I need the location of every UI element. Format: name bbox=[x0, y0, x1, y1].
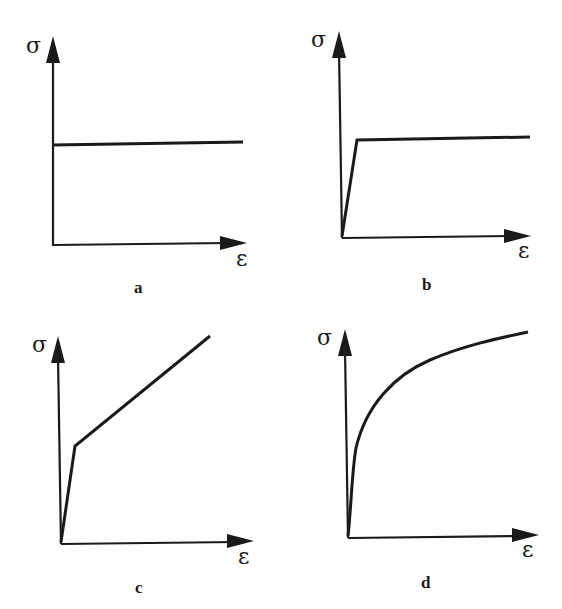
y-axis bbox=[58, 356, 61, 544]
panel-c: σ ε c bbox=[32, 332, 254, 597]
panel-caption: c bbox=[135, 578, 143, 597]
stress-strain-curve bbox=[348, 332, 528, 536]
x-axis-label: ε bbox=[238, 544, 249, 569]
panel-a: σ ε a bbox=[26, 33, 247, 297]
stress-strain-curve bbox=[53, 142, 243, 145]
stress-strain-figure: σ ε a σ ε b σ ε c σ ε d bbox=[0, 0, 562, 609]
x-axis-label: ε bbox=[236, 246, 247, 271]
y-axis-arrow-icon bbox=[51, 336, 65, 363]
x-axis bbox=[342, 236, 512, 238]
panel-b: σ ε b bbox=[311, 27, 531, 294]
panel-d: σ ε d bbox=[317, 325, 539, 592]
stress-strain-curve bbox=[61, 336, 210, 542]
y-axis-arrow-icon bbox=[338, 329, 352, 356]
panel-caption: d bbox=[421, 573, 431, 592]
y-axis bbox=[339, 50, 342, 238]
panel-caption: a bbox=[134, 278, 143, 297]
x-axis bbox=[53, 243, 228, 245]
x-axis-label: ε bbox=[518, 238, 529, 263]
stress-strain-curve bbox=[342, 137, 530, 236]
y-axis bbox=[345, 348, 348, 538]
y-axis-arrow-icon bbox=[46, 36, 60, 63]
y-axis-label: σ bbox=[32, 332, 47, 357]
y-axis-arrow-icon bbox=[332, 31, 346, 58]
x-axis-label: ε bbox=[522, 537, 533, 562]
x-axis bbox=[348, 536, 520, 538]
y-axis-label: σ bbox=[317, 325, 332, 350]
panel-caption: b bbox=[422, 275, 431, 294]
y-axis-label: σ bbox=[26, 33, 41, 58]
x-axis bbox=[61, 542, 236, 544]
y-axis-label: σ bbox=[311, 27, 326, 52]
